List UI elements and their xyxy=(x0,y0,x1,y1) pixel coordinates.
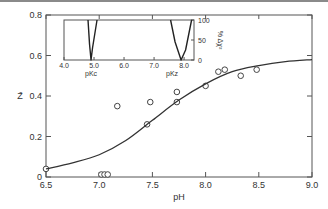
y-tick-label: 0.2 xyxy=(29,132,42,142)
inset-x-tick-label: 5.0 xyxy=(89,62,99,69)
x-tick-label: 7.0 xyxy=(93,180,106,190)
y-tick-label: 0.4 xyxy=(29,91,42,101)
data-point xyxy=(174,89,180,95)
inset-pkc-label: pKc xyxy=(85,70,98,78)
inset-pkz-label: pKz xyxy=(166,70,179,78)
x-tick-label: 8.5 xyxy=(253,180,266,190)
x-tick-label: 9.0 xyxy=(306,180,319,190)
inset-x-tick-label: 7.0 xyxy=(149,62,159,69)
data-point xyxy=(105,172,111,178)
data-point xyxy=(254,67,260,73)
data-point xyxy=(216,69,222,75)
data-point xyxy=(114,103,120,109)
inset-y-axis-label: % Δχ² xyxy=(216,31,224,50)
inset-y-tick-label: 0 xyxy=(198,57,202,64)
inset-plot: 4.05.06.07.08.0050100pKcpKz% Δχ² xyxy=(59,17,224,78)
x-tick-label: 7.5 xyxy=(146,180,159,190)
y-tick-label: 0.8 xyxy=(29,10,42,20)
y-tick-label: 0 xyxy=(37,172,42,182)
y-tick-label: 0.6 xyxy=(29,51,42,61)
x-tick-label: 8.0 xyxy=(199,180,212,190)
chart-canvas: 6.57.07.58.08.59.000.20.40.60.8 4.05.06.… xyxy=(0,0,328,209)
x-axis-label: pH xyxy=(173,192,185,202)
main-plot-series xyxy=(43,60,312,178)
inset-x-tick-label: 8.0 xyxy=(179,62,189,69)
inset-x-tick-label: 6.0 xyxy=(119,62,129,69)
inset-y-tick-label: 50 xyxy=(198,37,206,44)
y-axis-label: Z̄ xyxy=(17,91,23,101)
inset-x-tick-label: 4.0 xyxy=(59,62,69,69)
data-point xyxy=(238,73,244,79)
inset-y-tick-label: 100 xyxy=(198,17,210,24)
data-point xyxy=(222,67,228,73)
data-point xyxy=(147,99,153,105)
